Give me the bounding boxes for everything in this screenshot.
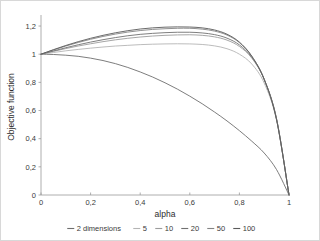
y-tick-label: 0 (32, 191, 36, 200)
y-tick-label: 0,4 (26, 134, 36, 143)
x-tick-label: 0,8 (234, 198, 244, 207)
x-axis-title: alpha (155, 209, 176, 219)
x-tick-label: 0 (39, 198, 43, 207)
legend-label: 2 dimensions (77, 224, 121, 233)
y-tick-label: 0,8 (26, 78, 36, 87)
y-axis-title: Objective function (6, 73, 16, 141)
legend-label: 20 (191, 224, 199, 233)
legend-label: 100 (243, 224, 256, 233)
legend-label: 5 (143, 224, 147, 233)
chart-figure: 00,20,40,60,811,2 00,20,40,60,81 alpha O… (0, 0, 320, 241)
series-line (41, 35, 289, 195)
series-lines (41, 27, 289, 195)
x-tick-label: 0,2 (85, 198, 95, 207)
x-tick-label: 0,6 (185, 198, 195, 207)
y-tick-label: 0,2 (26, 163, 36, 172)
y-axis-ticks: 00,20,40,60,811,2 (26, 22, 41, 200)
chart-legend: 2 dimensions5102050100 (67, 224, 255, 233)
series-line (41, 44, 289, 195)
series-line (41, 54, 289, 195)
line-chart: 00,20,40,60,811,2 00,20,40,60,81 alpha O… (1, 1, 320, 241)
x-tick-label: 1 (287, 198, 291, 207)
y-tick-label: 1,2 (26, 22, 36, 31)
x-tick-label: 0,4 (135, 198, 145, 207)
y-tick-label: 0,6 (26, 106, 36, 115)
series-line (41, 28, 289, 195)
legend-label: 10 (165, 224, 173, 233)
series-line (41, 27, 289, 195)
legend-label: 50 (217, 224, 225, 233)
y-tick-label: 1 (32, 50, 36, 59)
